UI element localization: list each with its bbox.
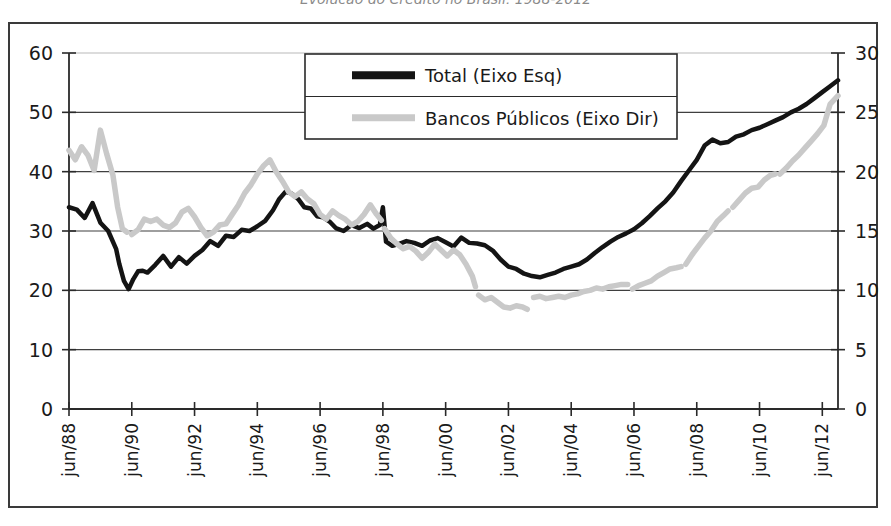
x-tick-label-jun-02: jun/02	[498, 423, 518, 478]
x-tick-label-jun-98: jun/98	[373, 423, 393, 478]
chart-figure: Evolução do Crédito no Brasil, 1988-2012…	[0, 0, 891, 526]
y-right-tick-label: 25	[855, 101, 879, 123]
series-line-bancos-publicos-seg-5	[632, 267, 681, 290]
x-tick-label-jun-94: jun/94	[247, 423, 267, 478]
y-left-tick-label: 60	[29, 42, 53, 64]
y-right-tick-label: 0	[855, 398, 867, 420]
y-right-tick-label: 10	[855, 279, 879, 301]
x-tick-label-jun-90: jun/90	[122, 423, 142, 478]
legend-label-bancos-publicos: Bancos Públicos (Eixo Dir)	[425, 108, 659, 129]
y-left-tick-label: 30	[29, 220, 53, 242]
x-tick-label-jun-06: jun/06	[624, 423, 644, 478]
series-line-bancos-publicos-seg-3	[479, 295, 528, 309]
y-left-tick-label: 0	[41, 398, 53, 420]
series-line-bancos-publicos-seg-4	[534, 284, 628, 298]
x-tick-label-jun-88: jun/88	[59, 423, 79, 478]
y-right-tick-label: 20	[855, 161, 879, 183]
y-left-tick-label: 50	[29, 101, 53, 123]
y-right-tick-label: 30	[855, 42, 879, 64]
x-tick-label-jun-10: jun/10	[750, 423, 770, 478]
x-tick-label-jun-12: jun/12	[812, 423, 832, 478]
y-left-tick-label: 10	[29, 339, 53, 361]
x-axis-labels: jun/88jun/90jun/92jun/94jun/96jun/98jun/…	[59, 423, 832, 478]
chart-svg: 0102030405060 051015202530 jun/88jun/90j…	[0, 0, 891, 526]
chart-legend[interactable]: Total (Eixo Esq)Bancos Públicos (Eixo Di…	[305, 54, 677, 139]
x-tick-label-jun-92: jun/92	[185, 423, 205, 478]
plot-area: 0102030405060 051015202530 jun/88jun/90j…	[0, 0, 891, 526]
y-axis-left-labels: 0102030405060	[29, 42, 53, 420]
series-line-bancos-publicos-seg-7	[733, 174, 775, 207]
y-right-tick-label: 15	[855, 220, 879, 242]
x-tick-label-jun-96: jun/96	[310, 423, 330, 478]
legend-label-total: Total (Eixo Esq)	[424, 65, 562, 86]
series-line-bancos-publicos-seg-6	[686, 211, 728, 264]
series-line-bancos-publicos-seg-8	[780, 96, 838, 174]
y-right-tick-label: 5	[855, 339, 867, 361]
x-tick-label-jun-04: jun/04	[561, 423, 581, 478]
y-axis-right-labels: 051015202530	[855, 42, 879, 420]
x-tick-label-jun-08: jun/08	[687, 423, 707, 478]
y-left-tick-label: 40	[29, 161, 53, 183]
y-left-tick-label: 20	[29, 279, 53, 301]
x-tick-label-jun-00: jun/00	[436, 423, 456, 478]
